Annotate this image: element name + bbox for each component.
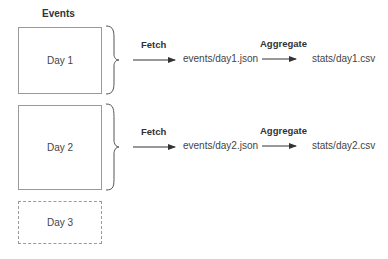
fetch-label-1: Fetch	[141, 39, 166, 50]
json-file-1: events/day1.json	[183, 53, 258, 64]
csv-file-2: stats/day2.csv	[312, 140, 375, 151]
csv-file-1: stats/day1.csv	[312, 53, 375, 64]
connectors	[0, 0, 388, 259]
json-file-2: events/day2.json	[183, 140, 258, 151]
fetch-label-2: Fetch	[141, 126, 166, 137]
brace-icon	[106, 104, 119, 190]
brace-icon	[106, 26, 119, 94]
aggregate-label-1: Aggregate	[260, 38, 307, 49]
aggregate-label-2: Aggregate	[260, 125, 307, 136]
